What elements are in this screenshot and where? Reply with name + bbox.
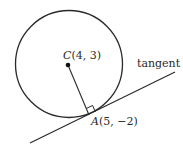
tangent-label: tangent	[137, 57, 181, 70]
circle-tangent-diagram: C(4, 3) A(5, −2) tangent	[0, 0, 183, 153]
radius-line	[68, 65, 89, 115]
center-point	[66, 63, 71, 68]
tangent-line	[30, 72, 175, 143]
center-label: C(4, 3)	[63, 49, 101, 62]
point-a-label: A(5, −2)	[90, 115, 138, 128]
